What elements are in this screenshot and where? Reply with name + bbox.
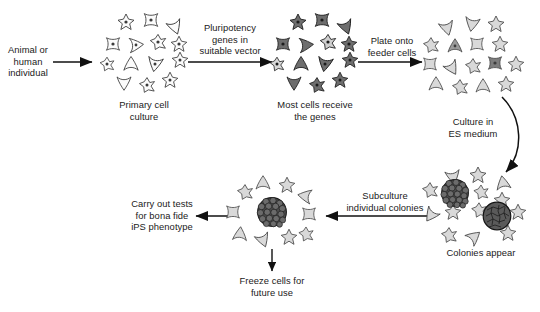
ips-derivation-diagram: Animal or human individual Primary cell … <box>0 0 540 312</box>
colony-bubbled <box>441 179 469 208</box>
label-freeze-cells: Freeze cells for future use <box>218 275 326 298</box>
label-pluripotency-genes-step: Pluripotency genes in suitable vector <box>182 22 278 57</box>
cell-cluster-primary-culture <box>100 14 188 93</box>
label-most-cells-receive-genes: Most cells receive the genes <box>262 99 368 122</box>
label-culture-in-es-medium: Culture in ES medium <box>440 116 506 139</box>
label-carry-out-tests: Carry out tests for bona fide iPS phenot… <box>126 198 198 233</box>
label-plate-onto-feeder-cells: Plate onto feeder cells <box>354 35 430 58</box>
label-source: Animal or human individual <box>2 44 54 79</box>
cell-cluster-transduced <box>270 14 358 93</box>
label-subculture-individual-colonies: Subculture individual colonies <box>330 190 440 213</box>
colony-irregular <box>483 202 511 230</box>
label-colonies-appear: Colonies appear <box>422 247 540 259</box>
label-primary-cell-culture: Primary cell culture <box>98 99 190 122</box>
cell-cluster-feeder-plated <box>424 16 524 94</box>
colony-subcultured <box>257 197 286 227</box>
